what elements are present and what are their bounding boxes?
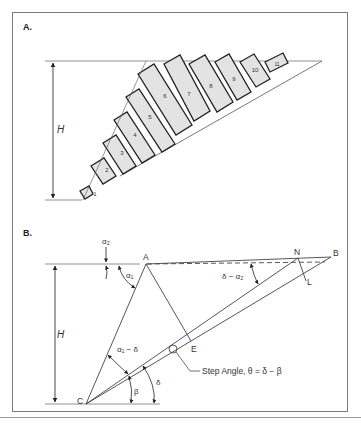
annotation-leader-line — [176, 352, 200, 371]
delta-arc — [143, 366, 154, 403]
alpha2-label: α₂ — [102, 237, 110, 246]
alpha1-minus-delta-label: α₁ − δ — [117, 345, 138, 354]
line-NL — [298, 258, 306, 281]
point-labels: A B N L E C — [77, 247, 339, 406]
beta-label: β — [134, 387, 139, 396]
delta-label: δ — [156, 378, 161, 387]
height-label-b: H — [57, 329, 65, 340]
height-label: H — [57, 124, 65, 135]
panel-b: H Step Angle, θ = δ − β A B N L E C — [45, 237, 339, 406]
line-CN — [86, 258, 298, 404]
alpha1-minus-delta-arc — [108, 355, 128, 374]
delta-minus-alpha2-arc — [251, 264, 258, 284]
block-2 — [91, 158, 116, 184]
point-L-label: L — [307, 277, 312, 287]
block-1-number: 1 — [93, 191, 97, 197]
alpha1-label: α₁ — [126, 271, 134, 280]
toppling-blocks — [80, 53, 288, 199]
line-AE — [146, 264, 191, 341]
point-C-label: C — [77, 396, 83, 406]
point-N-label: N — [294, 247, 300, 257]
block-10-number: 10 — [252, 67, 259, 73]
beta-arc — [129, 376, 132, 403]
point-A-label: A — [143, 252, 149, 262]
alpha2-arrow-bottom — [106, 266, 107, 279]
geometry-lines — [86, 257, 331, 404]
step-angle-annotation: Step Angle, θ = δ − β — [202, 366, 282, 376]
delta-minus-alpha2-label: δ − α₂ — [222, 272, 243, 281]
point-E-label: E — [191, 344, 197, 354]
point-B-label: B — [333, 248, 339, 258]
panel-a: H 1 2 3 4 5 6 7 8 9 1 — [45, 53, 322, 200]
diagram-canvas: H 1 2 3 4 5 6 7 8 9 1 — [0, 0, 361, 425]
line-CB — [86, 257, 331, 404]
block-11-number: 11 — [274, 61, 279, 67]
